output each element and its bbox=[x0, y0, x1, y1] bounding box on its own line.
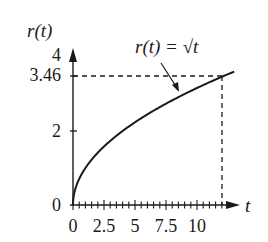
y-tick-label-3-46: 3.46 bbox=[30, 65, 62, 85]
x-tick-label-2-5: 2.5 bbox=[93, 216, 116, 236]
y-tick-label-0: 0 bbox=[52, 195, 61, 215]
annotation-arrow-icon bbox=[172, 82, 179, 92]
x-axis-arrow-icon bbox=[226, 201, 240, 209]
y-axis-arrow-icon bbox=[69, 48, 77, 62]
curve-label: r(t) = √t bbox=[135, 36, 199, 58]
x-tick-label-5: 5 bbox=[131, 216, 140, 236]
x-tick-label-7-5: 7.5 bbox=[155, 216, 178, 236]
y-tick-label-4: 4 bbox=[52, 45, 61, 65]
x-tick-label-10: 10 bbox=[188, 216, 206, 236]
sqrt-chart: r(t) 4 3.46 2 0 0 2.5 5 7.5 10 t r(t) = … bbox=[0, 0, 268, 242]
y-axis-label: r(t) bbox=[27, 20, 52, 42]
x-axis-label: t bbox=[245, 195, 251, 216]
sqrt-curve bbox=[73, 72, 234, 205]
x-tick-label-0: 0 bbox=[69, 216, 78, 236]
y-tick-label-2: 2 bbox=[52, 121, 61, 141]
